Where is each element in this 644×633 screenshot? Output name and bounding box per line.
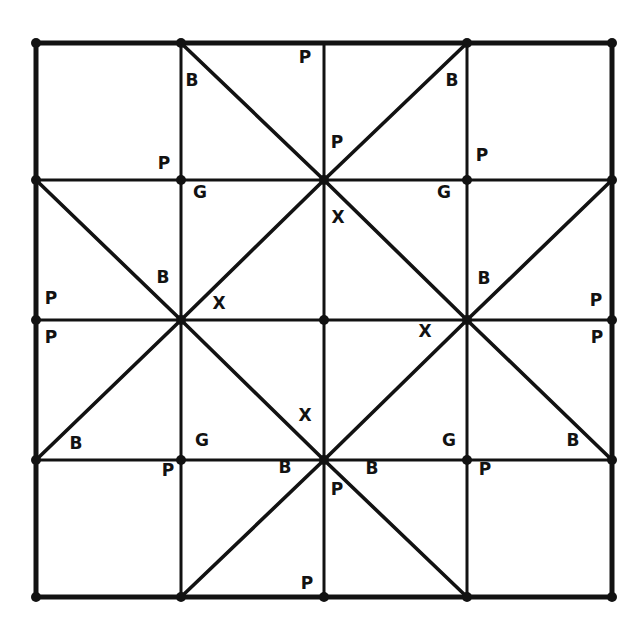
label-p-row1-left: P	[158, 153, 170, 173]
node-top-c1	[176, 38, 186, 48]
node-r1-left	[31, 175, 41, 185]
label-p-left-upper: P	[45, 288, 57, 308]
label-x-right-center: X	[418, 321, 431, 341]
lattice-diagram: BPBPPPGGXBBPPXPPXXBGGBPBBPPP	[0, 0, 644, 633]
label-b-top-left: B	[186, 70, 199, 90]
node-r2-right	[607, 315, 617, 325]
label-p-row3-right: P	[479, 459, 491, 479]
label-p-center-upper: P	[331, 132, 343, 152]
node-bottom-c1	[176, 592, 186, 602]
label-b-row3-left: B	[70, 433, 83, 453]
node-bottom-c2	[319, 592, 329, 602]
node-r2-c1	[176, 315, 186, 325]
label-g-row1-right: G	[437, 182, 451, 202]
node-bottom-right	[607, 592, 617, 602]
node-center	[319, 315, 329, 325]
node-r3-left	[31, 455, 41, 465]
node-bottom-left	[31, 592, 41, 602]
label-b-mid-left: B	[157, 267, 170, 287]
label-p-bottom-center: P	[331, 479, 343, 499]
label-x-lower-center: X	[298, 405, 311, 425]
node-top-right	[607, 38, 617, 48]
node-r1-c3	[462, 175, 472, 185]
node-r1-c1	[176, 175, 186, 185]
label-b-bottom-right: B	[366, 458, 379, 478]
node-r3-right	[607, 455, 617, 465]
label-p-top-mid: P	[299, 47, 311, 67]
label-x-left-center: X	[212, 293, 225, 313]
label-g-row3-left: G	[195, 430, 209, 450]
label-p-right-lower: P	[591, 327, 603, 347]
label-b-bottom-left: B	[279, 457, 292, 477]
label-b-mid-right: B	[478, 268, 491, 288]
node-r2-left	[31, 315, 41, 325]
label-x-upper-center: X	[331, 207, 344, 227]
label-g-row3-right: G	[442, 430, 456, 450]
label-b-row3-right: B	[567, 430, 580, 450]
node-r1-center	[319, 175, 329, 185]
label-p-left-lower: P	[45, 327, 57, 347]
node-r3-c1	[176, 455, 186, 465]
node-r3-c3	[462, 455, 472, 465]
node-bottom-c3	[462, 592, 472, 602]
node-r3-center	[319, 455, 329, 465]
label-p-row1-right: P	[476, 145, 488, 165]
label-p-right-upper: P	[590, 290, 602, 310]
node-top-left	[31, 38, 41, 48]
label-b-top-right: B	[446, 70, 459, 90]
node-r1-right	[607, 175, 617, 185]
node-top-c3	[462, 38, 472, 48]
label-g-row1-left: G	[193, 182, 207, 202]
node-r2-c3	[462, 315, 472, 325]
label-p-bottom-edge: P	[301, 573, 313, 593]
label-p-row3-left: P	[162, 460, 174, 480]
diagram-canvas: BPBPPPGGXBBPPXPPXXBGGBPBBPPP	[0, 0, 644, 633]
